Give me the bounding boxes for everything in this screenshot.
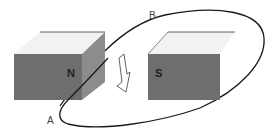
downward-motion-arrow-icon [117,54,130,92]
south-magnet: S [148,32,235,100]
diagram-svg: N S A B [0,0,277,134]
point-a-label: A [47,115,54,126]
north-pole-label: N [67,67,75,79]
diagram-canvas: N S A B [0,0,277,134]
north-magnet: N [14,32,105,100]
point-b-label: B [149,10,156,21]
south-magnet-top-face [148,32,235,54]
south-pole-label: S [155,67,162,79]
